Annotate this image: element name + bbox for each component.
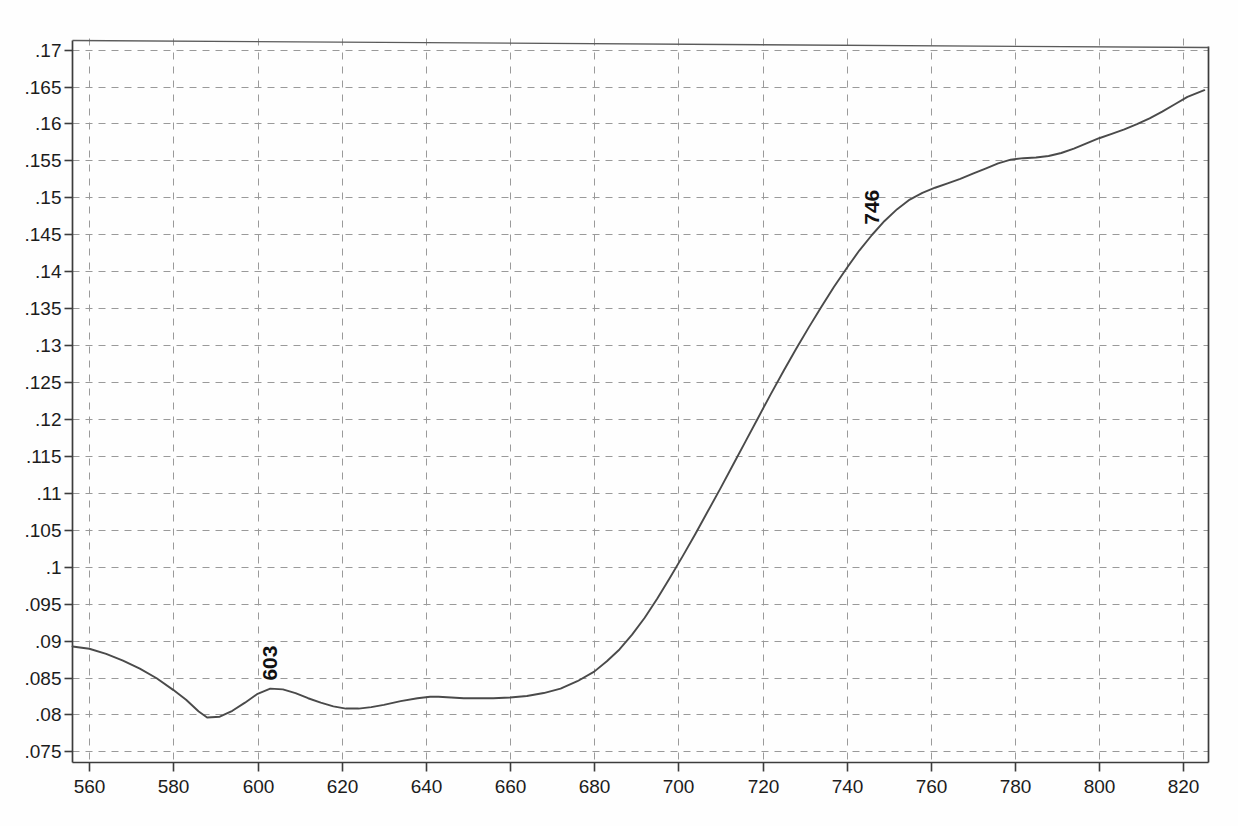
- y-tick-label: .165: [25, 77, 62, 98]
- y-tick-label: .145: [25, 224, 62, 245]
- y-tick-label: .13: [35, 335, 61, 356]
- plot-canvas: .17.165.16.155.15.145.14.135.13.125.12.1…: [0, 0, 1238, 826]
- x-tick-label: 800: [1084, 776, 1116, 797]
- x-tick-label: 620: [327, 776, 359, 797]
- absorbance-curve: [73, 90, 1205, 717]
- data-curve-group: [73, 90, 1205, 717]
- peak-annotations-group: 603746: [258, 190, 883, 681]
- peak-label: 603: [258, 646, 281, 681]
- x-tick-label: 720: [748, 776, 780, 797]
- axis-top: [73, 41, 1209, 48]
- y-tick-label: .105: [25, 520, 62, 541]
- x-tick-label: 640: [411, 776, 443, 797]
- y-axis-tick-labels: .17.165.16.155.15.145.14.135.13.125.12.1…: [25, 40, 62, 762]
- y-tick-label: .14: [35, 261, 62, 282]
- x-tick-label: 660: [495, 776, 527, 797]
- x-tick-label: 740: [832, 776, 864, 797]
- peak-annotation: 603: [258, 646, 281, 681]
- peak-label: 746: [860, 190, 883, 225]
- y-tick-label: .115: [26, 446, 62, 467]
- y-tick-label: .11: [36, 483, 61, 504]
- x-tick-label: 580: [158, 776, 190, 797]
- y-tick-label: .15: [35, 187, 61, 208]
- x-tick-label: 560: [74, 776, 106, 797]
- y-tick-label: .17: [35, 40, 61, 61]
- y-tick-label: .095: [25, 594, 62, 615]
- plot-frame: [73, 41, 1209, 763]
- y-tick-label: .155: [25, 150, 62, 171]
- y-tick-label: .125: [25, 372, 62, 393]
- x-axis-tick-labels: 5605806006206406606807007207407607808008…: [74, 776, 1200, 797]
- y-tick-label: .16: [35, 113, 61, 134]
- x-tick-label: 700: [663, 776, 695, 797]
- x-tick-label: 820: [1168, 776, 1200, 797]
- x-tick-label: 600: [243, 776, 275, 797]
- spectrum-chart: .17.165.16.155.15.145.14.135.13.125.12.1…: [0, 0, 1238, 826]
- y-tick-label: .085: [25, 668, 62, 689]
- y-tick-label: .135: [25, 298, 62, 319]
- y-tick-label: .1: [46, 557, 62, 578]
- x-tick-label: 680: [579, 776, 611, 797]
- peak-annotation: 746: [860, 190, 883, 225]
- y-tick-label: .08: [35, 704, 61, 725]
- y-tick-label: .075: [25, 741, 62, 762]
- y-tick-label: .09: [35, 631, 61, 652]
- x-tick-label: 760: [916, 776, 948, 797]
- x-tick-label: 780: [1000, 776, 1032, 797]
- y-tick-label: .12: [35, 409, 61, 430]
- gridlines-group: [73, 39, 1209, 763]
